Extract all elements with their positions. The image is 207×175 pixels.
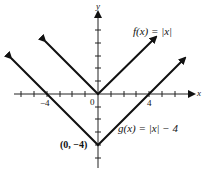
- f-label: f(x) = |x|: [133, 25, 172, 37]
- f-line: [45, 37, 156, 94]
- x-axis-label: x: [197, 88, 201, 98]
- vertex-label: (0, −4): [60, 139, 87, 150]
- y-axis-label: y: [96, 1, 100, 11]
- tick-label-neg4: −4: [40, 98, 50, 108]
- g-label: g(x) = |x| − 4: [118, 122, 178, 134]
- tick-label-0: 0: [90, 97, 95, 107]
- plot-area: [0, 0, 207, 175]
- tick-label-4: 4: [147, 98, 152, 108]
